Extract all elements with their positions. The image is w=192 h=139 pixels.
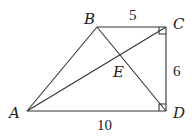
length-cd: 6 — [173, 63, 181, 79]
segment-bd — [97, 27, 166, 111]
label-c: C — [173, 15, 185, 33]
geometry-diagram: B C E A D 5 6 10 — [0, 0, 192, 139]
label-b: B — [83, 10, 95, 28]
segment-ab — [27, 27, 97, 111]
label-e: E — [112, 63, 124, 81]
label-d: D — [172, 104, 185, 122]
segment-ac — [27, 27, 166, 111]
label-a: A — [7, 104, 20, 122]
length-ad: 10 — [97, 117, 112, 133]
length-bc: 5 — [129, 7, 137, 23]
